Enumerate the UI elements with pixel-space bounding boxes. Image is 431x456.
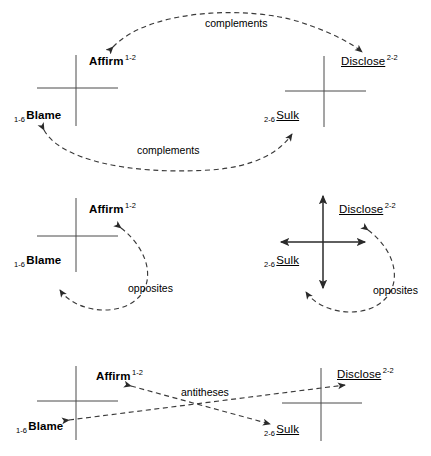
node-code-sulk-p3: 2-6 xyxy=(264,429,275,438)
node-name-disclose-p2: Disclose xyxy=(339,203,383,215)
node-label-blame-p2: 1-6Blame xyxy=(14,255,61,270)
edge-label-antitheses: antitheses xyxy=(181,387,229,398)
node-code-disclose-p2: 2-2 xyxy=(385,201,396,210)
node-name-affirm-p1: Affirm xyxy=(89,55,123,67)
node-code-blame-p3: 1-6 xyxy=(16,426,27,435)
panel-opposites-edges xyxy=(60,228,394,312)
node-name-affirm-p3: Affirm xyxy=(96,370,130,382)
node-name-blame-p3: Blame xyxy=(28,420,63,432)
node-label-affirm-p2: Affirm1-2 xyxy=(89,200,136,215)
node-label-disclose-p2: Disclose2-2 xyxy=(339,200,396,215)
node-name-sulk-p1: Sulk xyxy=(276,109,299,121)
diagram-canvas: Affirm1-2 1-6Blame Disclose2-2 2-6Sulk c… xyxy=(0,0,431,456)
node-label-sulk-p2: 2-6Sulk xyxy=(264,255,299,270)
node-code-disclose-p1: 2-2 xyxy=(387,53,398,62)
panel-complements-axes xyxy=(37,55,366,127)
node-name-blame-p2: Blame xyxy=(26,254,61,266)
node-code-blame-p2: 1-6 xyxy=(14,260,25,269)
node-label-blame-p3: 1-6Blame xyxy=(16,421,63,436)
panel-opposites-axes xyxy=(37,196,365,288)
edge-label-opposites-right: opposites xyxy=(373,285,418,296)
edge-label-opposites-left: opposites xyxy=(128,283,173,294)
node-name-sulk-p2: Sulk xyxy=(276,254,299,266)
node-label-affirm-p3: Affirm1-2 xyxy=(96,367,143,382)
node-label-blame-p1: 1-6Blame xyxy=(14,110,61,125)
node-label-affirm-p1: Affirm1-2 xyxy=(89,52,136,67)
node-code-affirm-p1: 1-2 xyxy=(125,53,136,62)
panel-complements-edges xyxy=(44,13,362,171)
edge-label-complements-bottom: complements xyxy=(137,145,199,156)
node-name-disclose-p1: Disclose xyxy=(341,55,385,67)
node-label-sulk-p3: 2-6Sulk xyxy=(264,424,299,439)
node-name-affirm-p2: Affirm xyxy=(89,203,123,215)
node-name-disclose-p3: Disclose xyxy=(337,368,381,380)
node-label-disclose-p3: Disclose2-2 xyxy=(337,365,394,380)
node-label-disclose-p1: Disclose2-2 xyxy=(341,52,398,67)
node-code-affirm-p2: 1-2 xyxy=(125,201,136,210)
node-name-sulk-p3: Sulk xyxy=(276,423,299,435)
edge-opposites-left xyxy=(60,228,148,310)
node-code-affirm-p3: 1-2 xyxy=(132,368,143,377)
node-code-sulk-p1: 2-6 xyxy=(264,115,275,124)
node-name-blame-p1: Blame xyxy=(26,109,61,121)
node-code-blame-p1: 1-6 xyxy=(14,115,25,124)
edge-label-complements-top: complements xyxy=(205,18,267,29)
node-code-sulk-p2: 2-6 xyxy=(264,260,275,269)
node-code-disclose-p3: 2-2 xyxy=(383,366,394,375)
node-label-sulk-p1: 2-6Sulk xyxy=(264,110,299,125)
